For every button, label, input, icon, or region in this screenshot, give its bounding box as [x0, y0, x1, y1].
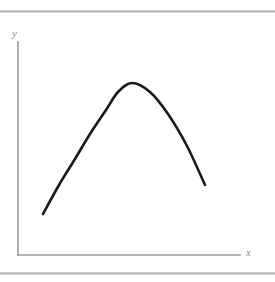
y-axis-label: y — [12, 28, 17, 39]
x-axis-label: x — [246, 247, 251, 258]
axes-group — [18, 42, 240, 255]
data-curve — [43, 83, 205, 214]
figure-page: y x — [0, 0, 275, 282]
curve-group — [43, 83, 205, 214]
bottom-divider-rule — [0, 272, 275, 275]
plot-area — [0, 0, 275, 282]
